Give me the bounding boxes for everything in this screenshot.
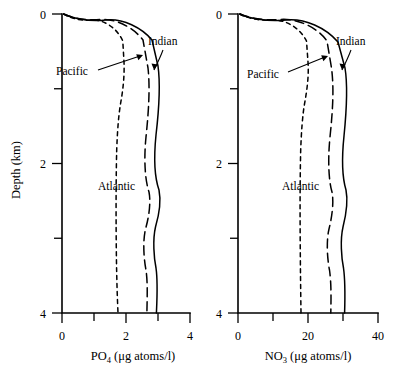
no3-curve-indian	[240, 14, 333, 313]
po4-ytick-2: 2	[40, 157, 46, 171]
no3-annotation-indian-label: Indian	[336, 35, 366, 47]
no3-x-axis-title-main: NO	[265, 349, 283, 363]
no3-panel: 0 2 4 0 20 40 NO3 (μg atoms/l) Indian Pa…	[216, 8, 384, 365]
po4-x-axis-title-units: (μg atoms/l)	[111, 349, 175, 363]
no3-annotation-pacific: Pacific	[247, 55, 328, 80]
po4-annotation-pacific: Pacific	[56, 54, 143, 77]
po4-curve-indian	[64, 14, 150, 313]
no3-x-axis-title-units: (μg atoms/l)	[287, 349, 351, 363]
po4-xtick-0: 0	[59, 329, 65, 343]
no3-ytick-4: 4	[216, 307, 222, 321]
no3-xtick-0: 0	[235, 329, 241, 343]
po4-annotation-indian-label: Indian	[148, 35, 178, 47]
no3-axis-lines	[238, 14, 378, 313]
no3-curve-pacific	[240, 14, 347, 313]
po4-panel: Depth (km) 0 2 4 0 2 4 PO4 (μg atoms/l)	[9, 8, 193, 365]
no3-ytick-2: 2	[216, 157, 222, 171]
po4-y-ticks	[52, 14, 62, 313]
no3-x-axis-title: NO3 (μg atoms/l)	[265, 349, 352, 365]
po4-annotation-atlantic-label: Atlantic	[98, 180, 135, 192]
po4-x-axis-title-main: PO	[91, 349, 107, 363]
po4-xtick-4: 4	[187, 329, 193, 343]
no3-annotation-pacific-label: Pacific	[247, 68, 279, 80]
no3-x-ticks	[238, 313, 378, 323]
po4-ytick-0: 0	[40, 8, 46, 22]
po4-annotation-indian: Indian	[148, 35, 178, 70]
po4-x-axis-title: PO4 (μg atoms/l)	[91, 349, 176, 365]
po4-axis-lines	[62, 14, 190, 313]
po4-indian-arrowhead	[152, 64, 158, 70]
po4-x-ticks	[62, 313, 190, 323]
nutrient-depth-profile-figure: Depth (km) 0 2 4 0 2 4 PO4 (μg atoms/l)	[0, 0, 407, 373]
no3-curve-atlantic	[240, 14, 308, 313]
no3-y-ticks	[228, 14, 238, 313]
po4-y-axis-title: Depth (km)	[9, 141, 23, 199]
no3-xtick-40: 40	[372, 329, 384, 343]
po4-ytick-4: 4	[40, 307, 46, 321]
no3-xtick-20: 20	[302, 329, 314, 343]
no3-ytick-0: 0	[216, 8, 222, 22]
po4-xtick-2: 2	[123, 329, 129, 343]
po4-curve-atlantic	[64, 14, 125, 313]
no3-annotation-atlantic-label: Atlantic	[282, 180, 319, 192]
figure-svg: Depth (km) 0 2 4 0 2 4 PO4 (μg atoms/l)	[0, 0, 407, 373]
po4-annotation-pacific-label: Pacific	[56, 65, 88, 77]
